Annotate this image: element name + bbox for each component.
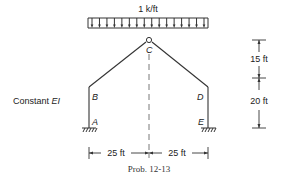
load-label: 1 k/ft <box>138 4 158 14</box>
dim-25ft-right: 25 ft <box>168 148 186 158</box>
diagram-canvas: 1 k/ft C B A D E <box>0 0 285 181</box>
rafter-cd <box>152 42 208 87</box>
node-label-a: A <box>91 117 98 127</box>
fixed-support-icon <box>82 128 97 132</box>
node-label-e: E <box>198 117 205 127</box>
node-label-b: B <box>92 92 98 102</box>
distributed-load <box>88 18 208 28</box>
node-label-c: C <box>146 45 153 55</box>
fixed-support-icon <box>201 128 216 132</box>
constant-ei-label: Constant EI <box>13 96 61 106</box>
hinge-icon <box>146 37 151 42</box>
rafter-bc <box>89 42 146 87</box>
dim-20ft: 20 ft <box>250 96 268 106</box>
frame-diagram: 1 k/ft C B A D E <box>0 0 285 181</box>
node-label-d: D <box>197 92 204 102</box>
dim-15ft: 15 ft <box>250 54 268 64</box>
dim-25ft-left: 25 ft <box>107 148 125 158</box>
figure-caption: Prob. 12-13 <box>128 164 171 174</box>
